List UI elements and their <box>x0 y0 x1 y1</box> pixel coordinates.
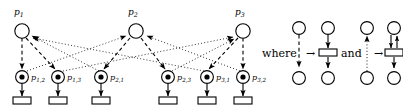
transition-t32[interactable] <box>234 97 252 104</box>
bottom-place-labels: p1,2 p1,3 p2,1 p2,3 p3,1 p3,2 <box>31 73 266 83</box>
dotted-arc-p32-p2 <box>147 36 240 71</box>
token <box>98 74 103 79</box>
place-label-p13: p1,3 <box>67 73 81 83</box>
token <box>204 74 209 79</box>
dashed-arc-p2-p23 <box>141 38 165 69</box>
legend-place-bottom <box>388 72 401 85</box>
legend-place-bottom <box>322 72 335 85</box>
legend-place-top <box>293 22 306 35</box>
place-label-p1: p1 <box>14 7 24 18</box>
legend-group: where → and → <box>262 22 403 85</box>
transition-t12[interactable] <box>13 97 31 104</box>
place-p2[interactable] <box>129 24 143 38</box>
place-label-p2: p2 <box>128 7 138 18</box>
place-label-p21: p2,1 <box>110 73 124 83</box>
transitions-group <box>13 97 252 104</box>
transition-arc-group <box>22 84 243 96</box>
legend-transition <box>385 49 403 56</box>
transition-t23[interactable] <box>159 97 177 104</box>
legend-dashed-target <box>319 22 337 85</box>
place-p23[interactable] <box>162 71 175 84</box>
transition-t31[interactable] <box>198 97 216 104</box>
legend-place-top <box>361 22 374 35</box>
dashed-arc-p3-p31 <box>209 38 238 69</box>
token <box>240 74 245 79</box>
transition-t21[interactable] <box>92 97 110 104</box>
petri-net-svg: p1 p2 p3 <box>0 0 403 108</box>
place-label-p32: p3,2 <box>252 73 266 83</box>
place-p3[interactable] <box>236 24 250 38</box>
figure-canvas: p1 p2 p3 <box>0 0 403 108</box>
legend-maps-to-2: → <box>374 47 383 60</box>
bottom-places-group <box>16 71 250 84</box>
place-p32[interactable] <box>237 71 250 84</box>
place-p31[interactable] <box>201 71 214 84</box>
place-p12[interactable] <box>16 71 29 84</box>
dotted-arc-p23-p3 <box>172 39 234 71</box>
place-p1[interactable] <box>15 24 29 38</box>
legend-transition <box>319 49 337 56</box>
dashed-arc-p1-p13 <box>26 38 55 69</box>
legend-place-bottom <box>293 72 306 85</box>
token <box>165 74 170 79</box>
dashed-arc-group <box>22 38 243 69</box>
top-place-labels: p1 p2 p3 <box>14 7 245 18</box>
place-label-p23: p2,3 <box>177 73 191 83</box>
token <box>55 74 60 79</box>
place-label-p12: p1,2 <box>31 73 45 83</box>
legend-dotted-source <box>361 22 374 85</box>
place-label-p31: p3,1 <box>216 73 230 83</box>
place-p21[interactable] <box>95 71 108 84</box>
legend-where-label: where <box>262 47 297 60</box>
legend-and-label: and <box>341 47 362 60</box>
legend-maps-to-1: → <box>306 47 315 60</box>
place-p13[interactable] <box>52 71 65 84</box>
legend-place-top <box>322 22 335 35</box>
dotted-arc-p13-p3 <box>63 37 233 71</box>
place-label-p3: p3 <box>235 7 245 18</box>
legend-place-bottom <box>361 72 374 85</box>
top-places-group <box>15 24 250 38</box>
legend-place-top <box>388 22 401 35</box>
token <box>19 74 24 79</box>
dashed-arc-p2-p21 <box>104 38 130 69</box>
dotted-arc-p31-p1 <box>33 38 204 71</box>
dotted-arc-group <box>27 36 240 71</box>
legend-dotted-target <box>385 22 403 85</box>
transition-t13[interactable] <box>49 97 67 104</box>
